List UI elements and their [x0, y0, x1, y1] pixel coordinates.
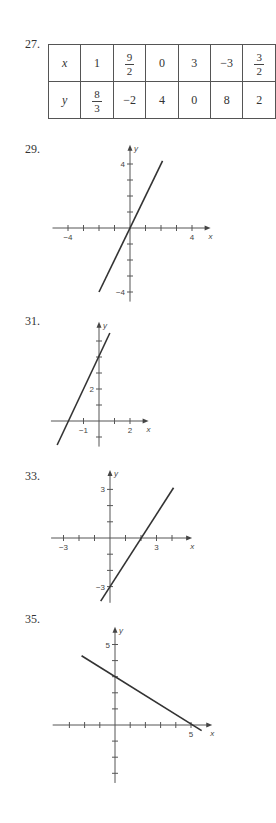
- plotted-line: [82, 656, 202, 731]
- y-axis-label: y: [118, 626, 124, 635]
- x-axis-arrow-icon: [206, 723, 212, 728]
- graph-35: 55xy: [0, 0, 276, 823]
- y-tick-label: 5: [106, 641, 111, 650]
- x-tick-label: 5: [189, 730, 194, 739]
- x-axis-label: x: [209, 729, 215, 738]
- y-axis-arrow-icon: [113, 627, 118, 633]
